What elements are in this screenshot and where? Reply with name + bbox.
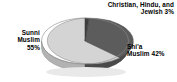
slice-label-christian-line-1: Christian, Hindu, and [108, 1, 174, 8]
slice-label-shia-muslim: Shi'a Muslim 42% [127, 43, 165, 58]
slice-label-sunni-line-3: 55% [4, 44, 40, 51]
pie-chart-figure: Christian, Hindu, and Jewish 3% Sunni Mu… [0, 0, 177, 82]
slice-label-sunni-line-1: Sunni [4, 29, 40, 36]
chart-shadow [46, 67, 126, 77]
slice-label-sunni-line-2: Muslim [4, 36, 40, 43]
slice-label-sunni-muslim: Sunni Muslim 55% [4, 29, 40, 51]
slice-label-christian-line-2: Jewish 3% [108, 8, 174, 15]
slice-label-shia-line-1: Shi'a [127, 43, 165, 50]
slice-label-shia-line-2: Muslim 42% [127, 50, 165, 57]
slice-label-christian-hindu-jewish: Christian, Hindu, and Jewish 3% [108, 1, 174, 16]
pie-slices [47, 18, 133, 64]
